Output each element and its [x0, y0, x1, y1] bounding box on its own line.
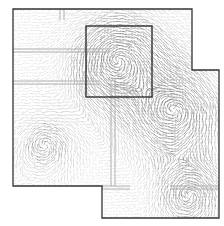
- flow-field-figure: [0, 0, 224, 226]
- wall-lines: [13, 9, 219, 189]
